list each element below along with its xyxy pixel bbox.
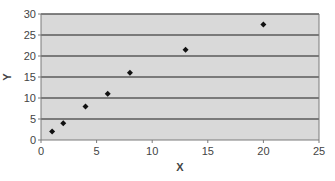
x-axis-label: X (176, 161, 184, 173)
x-tick-label: 20 (257, 145, 269, 157)
y-tick-label: 0 (30, 134, 36, 146)
y-tick-label: 10 (24, 92, 36, 104)
x-tick-label: 10 (146, 145, 158, 157)
x-tick-label: 15 (202, 145, 214, 157)
y-tick-label: 20 (24, 50, 36, 62)
y-tick-label: 30 (24, 8, 36, 20)
x-tick-label: 25 (313, 145, 325, 157)
x-tick-label: 5 (94, 145, 100, 157)
y-axis-label: Y (1, 73, 13, 81)
y-tick-label: 25 (24, 29, 36, 41)
scatter-chart: 051015202530 0510152025 X Y (0, 0, 335, 181)
y-tick-label: 15 (24, 71, 36, 83)
y-tick-label: 5 (30, 113, 36, 125)
y-axis-tick-labels: 051015202530 (24, 8, 41, 146)
x-axis-tick-labels: 0510152025 (38, 140, 325, 157)
x-tick-label: 0 (38, 145, 44, 157)
